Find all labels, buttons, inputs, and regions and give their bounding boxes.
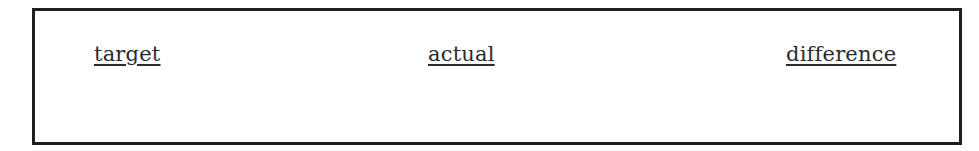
difference-link[interactable]: difference	[786, 42, 896, 66]
actual-link[interactable]: actual	[428, 42, 495, 66]
target-link[interactable]: target	[94, 42, 161, 66]
comparison-frame	[32, 8, 962, 145]
